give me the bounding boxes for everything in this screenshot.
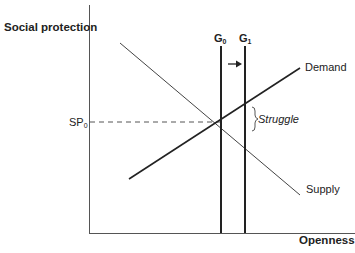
x-axis-label: Openness: [299, 235, 355, 247]
g0-label: G0: [214, 33, 226, 44]
y-axis-label: Social protection: [4, 22, 97, 34]
demand-label: Demand: [305, 62, 347, 73]
sp0-label: SP0: [69, 117, 88, 128]
struggle-label: Struggle: [258, 114, 299, 125]
diagram-canvas: [0, 0, 355, 253]
g1-label: G1: [239, 33, 251, 44]
shift-arrow-icon: [228, 61, 242, 68]
supply-label: Supply: [306, 184, 340, 195]
